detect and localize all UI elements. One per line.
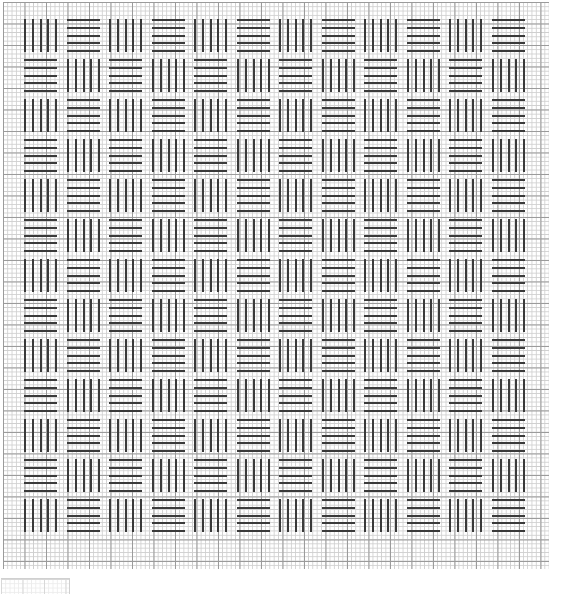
pattern-canvas bbox=[0, 0, 568, 594]
graph-paper-scrap-edge bbox=[1, 578, 70, 594]
graph-paper-background bbox=[3, 2, 549, 569]
